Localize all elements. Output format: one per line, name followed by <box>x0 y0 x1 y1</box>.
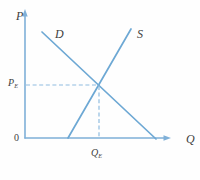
supply-curve-label: S <box>137 28 143 40</box>
equilibrium-quantity-label: QE <box>91 148 102 158</box>
origin-label: 0 <box>14 133 19 143</box>
quantity-axis-arrowhead <box>164 135 172 140</box>
equilibrium-price-label: PE <box>8 78 18 88</box>
price-axis-label: P <box>16 10 23 22</box>
demand-curve-label: D <box>55 28 64 40</box>
supply-demand-diagram: P Q 0 D S PE QE <box>0 0 200 180</box>
quantity-axis-label: Q <box>186 133 195 145</box>
equilibrium-quantity-label-subscript: E <box>98 152 102 159</box>
equilibrium-price-label-subscript: E <box>14 82 18 89</box>
